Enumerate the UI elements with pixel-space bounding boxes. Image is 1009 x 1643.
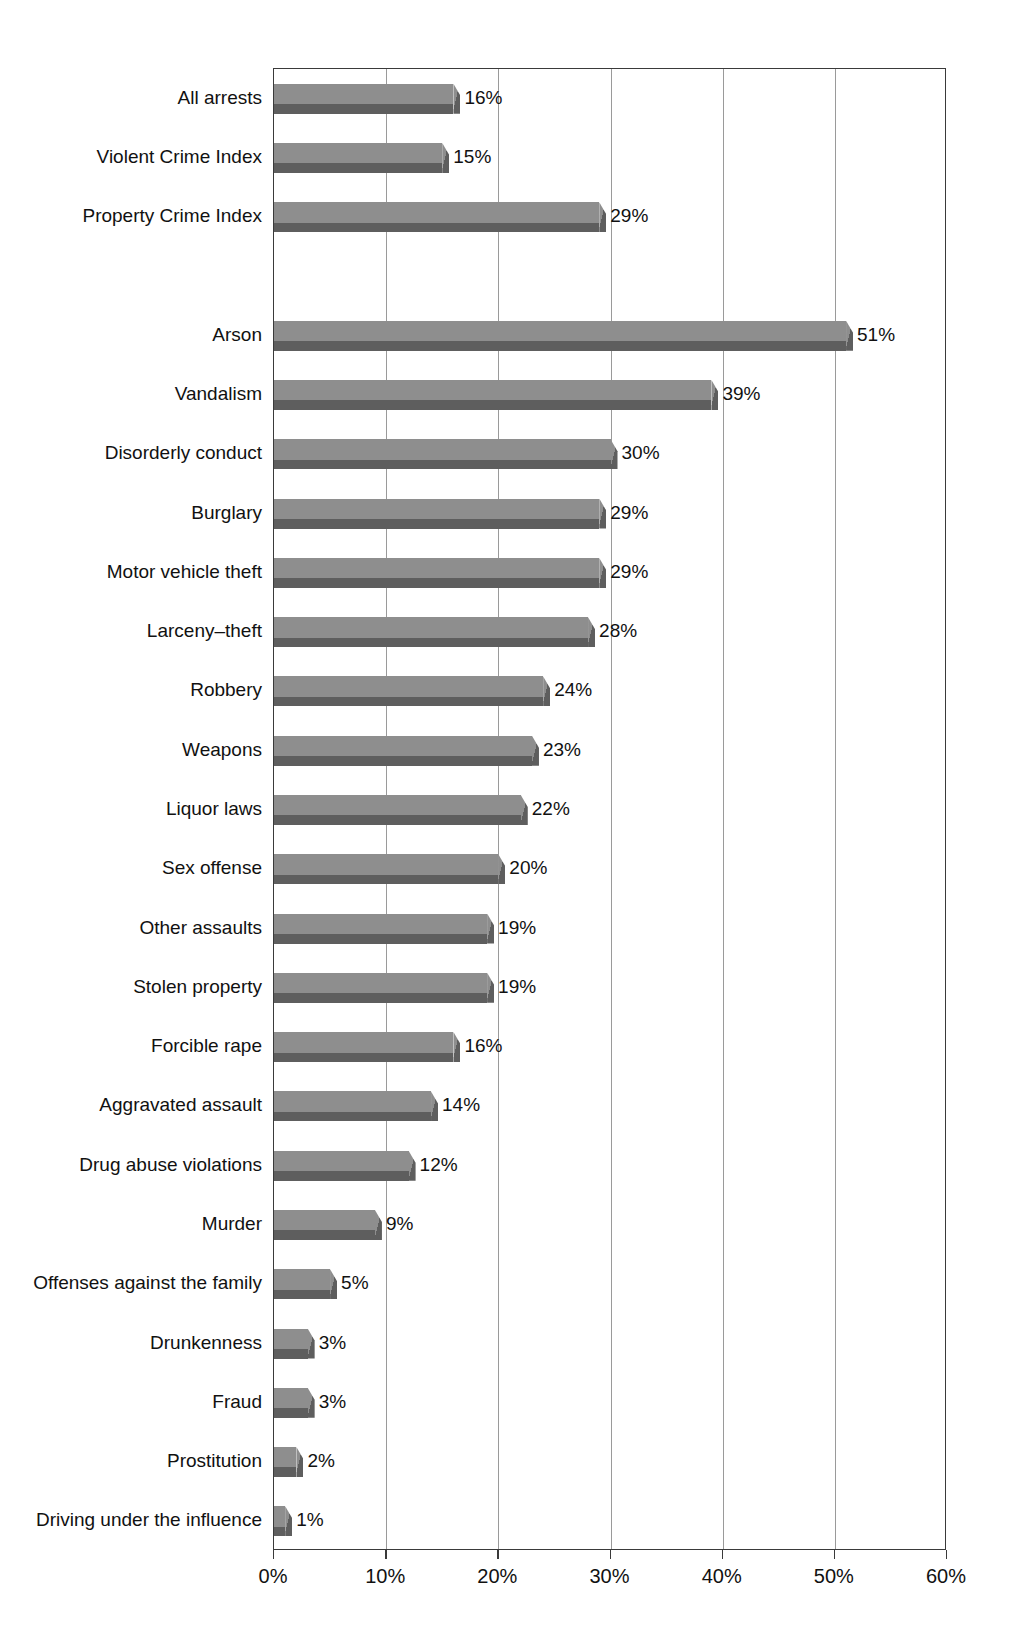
bar-face bbox=[274, 1151, 409, 1171]
bar[interactable] bbox=[274, 1388, 308, 1418]
bar-value-label: 29% bbox=[610, 562, 648, 581]
category-label: Arson bbox=[0, 325, 262, 344]
bar-row: 5% bbox=[274, 1269, 945, 1299]
bar[interactable] bbox=[274, 143, 442, 173]
bar-row: 29% bbox=[274, 558, 945, 588]
bar-row: 19% bbox=[274, 914, 945, 944]
bar-face bbox=[274, 1447, 296, 1467]
bar-face bbox=[274, 558, 599, 578]
bar[interactable] bbox=[274, 914, 487, 944]
x-tick bbox=[722, 1550, 723, 1559]
bar-face bbox=[274, 439, 611, 459]
bar[interactable] bbox=[274, 84, 453, 114]
bar-value-label: 20% bbox=[509, 858, 547, 877]
bar-shadow-face bbox=[274, 756, 532, 766]
bar-shadow-face bbox=[274, 341, 846, 351]
bar-shadow-face bbox=[274, 578, 599, 588]
bar-bevel bbox=[431, 1091, 438, 1121]
bar-shadow-face bbox=[274, 993, 487, 1003]
bar-bevel bbox=[285, 1506, 292, 1536]
x-tick-label: 0% bbox=[259, 1566, 288, 1586]
bar-face bbox=[274, 795, 521, 815]
bar[interactable] bbox=[274, 1151, 409, 1181]
x-tick-label: 30% bbox=[589, 1566, 629, 1586]
bar[interactable] bbox=[274, 973, 487, 1003]
bar-face bbox=[274, 1329, 308, 1349]
bar-row: 1% bbox=[274, 1506, 945, 1536]
category-label: Sex offense bbox=[0, 858, 262, 877]
bar[interactable] bbox=[274, 1210, 375, 1240]
bar-shadow-face bbox=[274, 460, 611, 470]
x-tick-label: 20% bbox=[477, 1566, 517, 1586]
bar[interactable] bbox=[274, 617, 588, 647]
bar-shadow-face bbox=[274, 1053, 453, 1063]
bar[interactable] bbox=[274, 736, 532, 766]
category-label: Murder bbox=[0, 1214, 262, 1233]
bar[interactable] bbox=[274, 854, 498, 884]
bar-row: 16% bbox=[274, 1032, 945, 1062]
bar-value-label: 2% bbox=[307, 1451, 334, 1470]
bar[interactable] bbox=[274, 321, 846, 351]
category-axis-labels: All arrestsViolent Crime IndexProperty C… bbox=[0, 68, 262, 1550]
bar-value-label: 5% bbox=[341, 1273, 368, 1292]
bar-shadow-face bbox=[274, 519, 599, 529]
bar[interactable] bbox=[274, 439, 611, 469]
x-tick-label: 60% bbox=[926, 1566, 966, 1586]
category-label: Motor vehicle theft bbox=[0, 562, 262, 581]
bar[interactable] bbox=[274, 795, 521, 825]
bar-bevel bbox=[409, 1151, 416, 1181]
bar[interactable] bbox=[274, 1032, 453, 1062]
bar[interactable] bbox=[274, 1447, 296, 1477]
bar-value-label: 12% bbox=[420, 1155, 458, 1174]
bar[interactable] bbox=[274, 676, 543, 706]
bar[interactable] bbox=[274, 499, 599, 529]
category-label: Prostitution bbox=[0, 1451, 262, 1470]
category-label: Offenses against the family bbox=[0, 1273, 262, 1292]
bar-series: 16%15%29%51%39%30%29%29%28%24%23%22%20%1… bbox=[274, 69, 945, 1549]
bar-face bbox=[274, 143, 442, 163]
category-label: Larceny–theft bbox=[0, 621, 262, 640]
category-label: Violent Crime Index bbox=[0, 147, 262, 166]
bar-bevel bbox=[453, 1032, 460, 1062]
bar-face bbox=[274, 380, 711, 400]
bar-value-label: 16% bbox=[464, 1036, 502, 1055]
bar-value-label: 29% bbox=[610, 206, 648, 225]
bar-row: 30% bbox=[274, 439, 945, 469]
bar-row: 14% bbox=[274, 1091, 945, 1121]
bar[interactable] bbox=[274, 380, 711, 410]
bar-bevel bbox=[453, 84, 460, 114]
bar-row: 12% bbox=[274, 1151, 945, 1181]
bar-bevel bbox=[375, 1210, 382, 1240]
bar-bevel bbox=[588, 617, 595, 647]
bar[interactable] bbox=[274, 1506, 285, 1536]
bar-bevel bbox=[296, 1447, 303, 1477]
bar-row: 29% bbox=[274, 202, 945, 232]
bar-face bbox=[274, 854, 498, 874]
bar-face bbox=[274, 914, 487, 934]
bar[interactable] bbox=[274, 1329, 308, 1359]
bar[interactable] bbox=[274, 202, 599, 232]
bar[interactable] bbox=[274, 1091, 431, 1121]
bar-face bbox=[274, 1388, 308, 1408]
bar-face bbox=[274, 84, 453, 104]
bar-value-label: 24% bbox=[554, 680, 592, 699]
bar-face bbox=[274, 321, 846, 341]
bar-shadow-face bbox=[274, 1290, 330, 1300]
bar-face bbox=[274, 676, 543, 696]
bar-bevel bbox=[711, 380, 718, 410]
bar-row: 2% bbox=[274, 1447, 945, 1477]
bar-face bbox=[274, 973, 487, 993]
bar[interactable] bbox=[274, 1269, 330, 1299]
bar-row: 3% bbox=[274, 1388, 945, 1418]
bar-shadow-face bbox=[274, 697, 543, 707]
category-label: Robbery bbox=[0, 680, 262, 699]
bar-value-label: 23% bbox=[543, 740, 581, 759]
bar-shadow-face bbox=[274, 163, 442, 173]
bar-shadow-face bbox=[274, 223, 599, 233]
bar-row: 15% bbox=[274, 143, 945, 173]
category-label: Property Crime Index bbox=[0, 206, 262, 225]
bar-bevel bbox=[599, 499, 606, 529]
bar-shadow-face bbox=[274, 815, 521, 825]
bar[interactable] bbox=[274, 558, 599, 588]
bar-bevel bbox=[846, 321, 853, 351]
